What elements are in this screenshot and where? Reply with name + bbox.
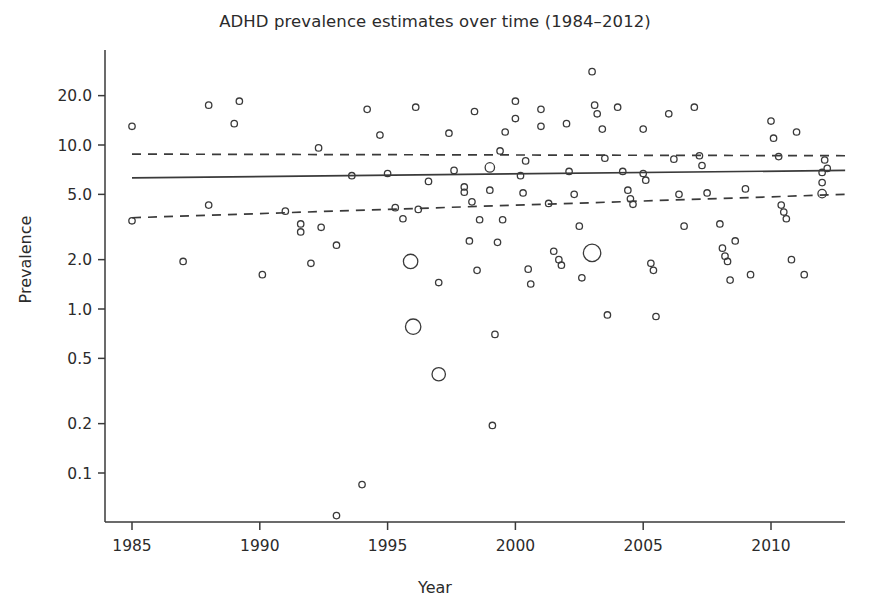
data-point-marker xyxy=(727,277,733,283)
data-point-marker xyxy=(318,224,324,230)
data-point-marker xyxy=(497,148,503,154)
data-point-marker xyxy=(400,216,406,222)
data-point-marker xyxy=(818,189,826,197)
data-point-marker xyxy=(676,191,682,197)
data-point-marker xyxy=(308,260,314,266)
data-point-marker xyxy=(747,271,753,277)
data-point-marker xyxy=(775,153,781,159)
data-point-marker xyxy=(551,248,557,254)
data-point-marker xyxy=(783,216,789,222)
data-point-marker xyxy=(469,199,475,205)
data-point-marker xyxy=(405,319,420,334)
data-point-marker xyxy=(377,132,383,138)
data-point-marker xyxy=(699,162,705,168)
data-point-marker xyxy=(512,98,518,104)
data-point-marker xyxy=(259,271,265,277)
confidence-bound-line xyxy=(132,154,845,156)
data-point-marker xyxy=(781,209,787,215)
data-point-marker xyxy=(297,229,303,235)
data-point-marker xyxy=(499,217,505,223)
data-point-marker xyxy=(451,167,457,173)
data-point-marker xyxy=(487,187,493,193)
data-point-marker xyxy=(724,258,730,264)
y-tick-label: 0.2 xyxy=(67,415,92,433)
y-axis-ticks: 0.10.20.51.02.05.010.020.0 xyxy=(57,87,105,482)
confidence-bound-line xyxy=(132,194,845,217)
data-point-marker xyxy=(770,135,776,141)
data-point-marker xyxy=(604,312,610,318)
data-point-marker xyxy=(494,239,500,245)
data-point-marker xyxy=(742,186,748,192)
data-point-marker xyxy=(520,190,526,196)
data-point-marker xyxy=(425,178,431,184)
data-point-marker xyxy=(648,260,654,266)
data-point-marker xyxy=(528,281,534,287)
data-point-marker xyxy=(432,368,445,381)
data-point-marker xyxy=(666,111,672,117)
data-point-marker xyxy=(129,123,135,129)
data-point-marker xyxy=(625,187,631,193)
data-point-marker xyxy=(620,168,626,174)
data-point-marker xyxy=(732,238,738,244)
x-tick-label: 1985 xyxy=(112,537,151,555)
data-point-marker xyxy=(614,104,620,110)
data-point-marker xyxy=(476,217,482,223)
data-point-marker xyxy=(492,331,498,337)
data-point-marker xyxy=(576,223,582,229)
data-point-marker xyxy=(466,238,472,244)
data-point-marker xyxy=(538,123,544,129)
y-tick-label: 5.0 xyxy=(67,186,92,204)
y-tick-label: 2.0 xyxy=(67,251,92,269)
data-points xyxy=(129,68,831,518)
data-point-marker xyxy=(704,190,710,196)
data-point-marker xyxy=(571,191,577,197)
data-point-marker xyxy=(512,115,518,121)
data-point-marker xyxy=(768,118,774,124)
data-point-marker xyxy=(671,156,677,162)
data-point-marker xyxy=(436,279,442,285)
data-point-marker xyxy=(558,262,564,268)
data-point-marker xyxy=(446,130,452,136)
data-point-marker xyxy=(643,177,649,183)
data-point-marker xyxy=(653,313,659,319)
data-point-marker xyxy=(579,275,585,281)
data-point-marker xyxy=(471,108,477,114)
x-tick-label: 2010 xyxy=(751,537,790,555)
data-point-marker xyxy=(778,202,784,208)
data-point-marker xyxy=(793,129,799,135)
data-point-marker xyxy=(297,221,303,227)
data-point-marker xyxy=(474,267,480,273)
data-point-marker xyxy=(538,106,544,112)
data-point-marker xyxy=(333,242,339,248)
data-point-marker xyxy=(180,258,186,264)
y-tick-label: 10.0 xyxy=(57,137,92,155)
data-point-marker xyxy=(821,157,827,163)
data-point-marker xyxy=(563,120,569,126)
x-tick-label: 1995 xyxy=(368,537,407,555)
chart-figure: ADHD prevalence estimates over time (198… xyxy=(0,0,870,613)
data-point-marker xyxy=(819,179,825,185)
data-point-marker xyxy=(640,170,646,176)
data-point-marker xyxy=(333,512,339,518)
y-tick-label: 0.1 xyxy=(67,465,92,483)
data-point-marker xyxy=(315,145,321,151)
data-point-marker xyxy=(788,256,794,262)
data-point-marker xyxy=(413,104,419,110)
plot-area: 0.10.20.51.02.05.010.020.0 1985199019952… xyxy=(0,0,870,613)
data-point-marker xyxy=(801,271,807,277)
y-tick-label: 0.5 xyxy=(67,350,92,368)
data-point-marker xyxy=(640,126,646,132)
y-tick-label: 20.0 xyxy=(57,87,92,105)
data-point-marker xyxy=(502,129,508,135)
data-point-marker xyxy=(594,111,600,117)
x-axis-ticks: 198519901995200020052010 xyxy=(112,522,790,555)
y-tick-label: 1.0 xyxy=(67,301,92,319)
data-point-marker xyxy=(717,221,723,227)
data-point-marker xyxy=(236,98,242,104)
data-point-marker xyxy=(364,106,370,112)
data-point-marker xyxy=(691,104,697,110)
data-point-marker xyxy=(599,126,605,132)
data-point-marker xyxy=(205,202,211,208)
data-point-marker xyxy=(719,245,725,251)
regression-lines xyxy=(132,154,845,218)
